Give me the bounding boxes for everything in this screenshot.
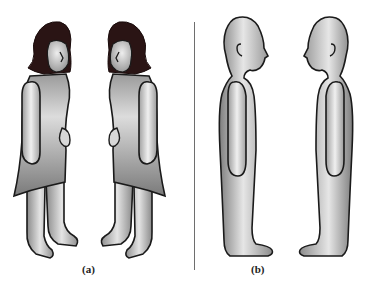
woman-facing-right: [14, 22, 78, 258]
woman-facing-left: [101, 22, 165, 258]
caption-a: (a): [82, 263, 95, 275]
panel-a: [14, 22, 165, 258]
caption-b: (b): [251, 263, 264, 275]
figure-canvas: [0, 0, 392, 285]
person-facing-left: [300, 17, 353, 256]
panel-divider: [194, 22, 195, 270]
person-facing-right: [219, 17, 272, 256]
panel-b: [219, 17, 352, 256]
